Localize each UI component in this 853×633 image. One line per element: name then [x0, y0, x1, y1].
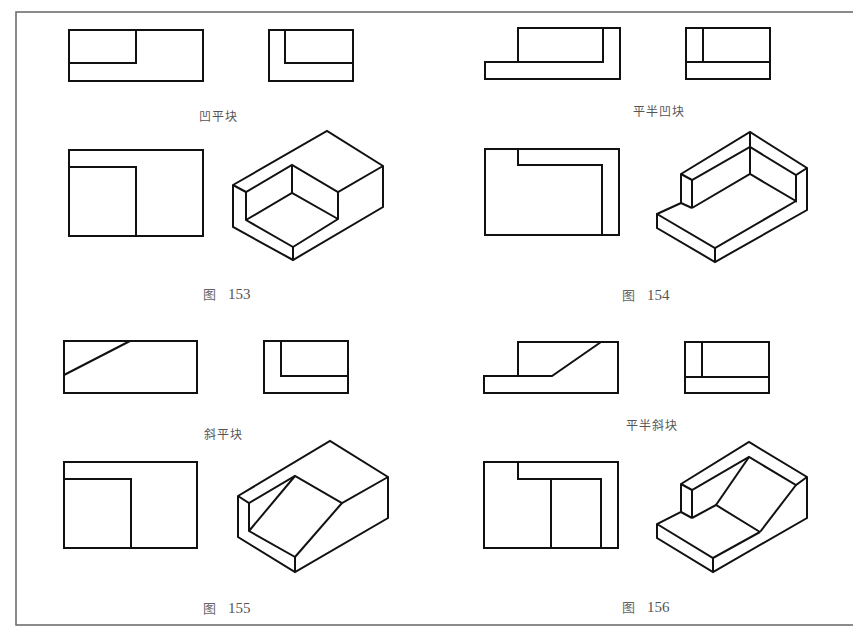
fig154-side-view [686, 28, 770, 79]
fig155-top-view [64, 462, 197, 548]
fig156-isometric-view [657, 442, 807, 572]
page-frame [16, 12, 853, 625]
fig153-isometric-view [233, 131, 383, 260]
fig156-side-view [685, 342, 769, 393]
fig156-top-view [484, 462, 618, 548]
fig155-front-view [64, 341, 197, 393]
drawing-page: 凹平块 平半凹块 斜平块 平半斜块 图153 图154 图155 图156 [0, 0, 853, 633]
fig153-label: 图153 [203, 284, 251, 303]
technical-drawings [0, 0, 853, 633]
fig153-number: 153 [228, 286, 251, 302]
fig155-prefix: 图 [203, 601, 216, 616]
fig153-caption: 凹平块 [199, 107, 238, 124]
fig154-number: 154 [647, 287, 670, 303]
fig156-prefix: 图 [622, 600, 635, 615]
figure-153 [69, 30, 383, 260]
fig156-caption: 平半斜块 [626, 416, 678, 433]
fig156-front-view [484, 342, 618, 393]
fig156-label: 图156 [622, 597, 670, 616]
fig153-front-view [69, 30, 203, 81]
fig153-side-view [269, 30, 353, 81]
fig154-prefix: 图 [622, 288, 635, 303]
fig154-top-view [485, 149, 619, 235]
fig155-number: 155 [228, 600, 251, 616]
fig155-label: 图155 [203, 598, 251, 617]
fig155-caption: 斜平块 [204, 425, 243, 442]
fig154-caption: 平半凹块 [633, 102, 685, 119]
fig154-label: 图154 [622, 285, 670, 304]
figure-155 [64, 341, 388, 572]
fig154-isometric-view [657, 132, 807, 262]
fig156-number: 156 [647, 599, 670, 615]
fig155-isometric-view [238, 441, 388, 572]
figure-156 [484, 342, 807, 572]
fig153-prefix: 图 [203, 287, 216, 302]
fig153-top-view [69, 150, 203, 236]
fig155-side-view [264, 341, 348, 393]
figure-154 [485, 28, 807, 262]
fig154-front-view [485, 28, 620, 79]
